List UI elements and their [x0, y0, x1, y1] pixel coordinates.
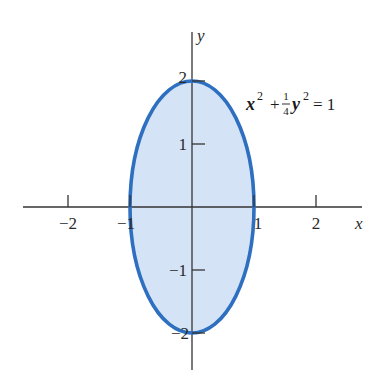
equation-plus: + [270, 95, 280, 114]
equation-fraction-numerator: 1 [283, 90, 289, 102]
equation-y-var: y [290, 94, 301, 114]
y-tick-label-2: 2 [179, 68, 188, 87]
x-tick-label-1: 1 [254, 214, 263, 233]
equation-x-exponent: 2 [257, 89, 263, 103]
y-tick-label-neg1: −1 [169, 261, 187, 280]
equation-y-exponent: 2 [303, 89, 309, 103]
x-tick-label-neg2: −2 [59, 214, 77, 233]
x-tick-label-2: 2 [312, 214, 321, 233]
ellipse-diagram: −2 −1 1 2 2 1 −1 −2 x y x 2 + 1 4 y 2 = … [0, 0, 386, 389]
equation-x-var: x [245, 94, 255, 114]
equation-equals-one: = 1 [313, 95, 335, 114]
y-tick-label-1: 1 [179, 135, 188, 154]
y-tick-label-neg2: −2 [171, 324, 189, 343]
x-tick-label-neg1: −1 [117, 214, 135, 233]
equation-fraction-denominator: 4 [283, 105, 289, 117]
x-axis-label: x [354, 214, 363, 233]
y-axis-label: y [195, 26, 205, 45]
equation-label: x 2 + 1 4 y 2 = 1 [245, 89, 335, 117]
